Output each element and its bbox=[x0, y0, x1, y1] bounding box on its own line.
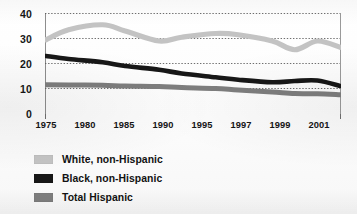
x-axis-label-1997: 1997 bbox=[224, 120, 258, 130]
legend-label-total-hispanic: Total Hispanic bbox=[62, 192, 133, 203]
legend-item-black-non-hispanic: Black, non-Hispanic bbox=[34, 169, 334, 188]
chart-legend: White, non-Hispanic Black, non-Hispanic … bbox=[34, 150, 334, 207]
x-axis-ticks bbox=[46, 114, 341, 119]
series-line-white-non-hispanic bbox=[46, 25, 340, 50]
legend-swatch-black-non-hispanic bbox=[34, 174, 53, 183]
x-axis-label-1995: 1995 bbox=[185, 120, 219, 130]
legend-label-black-non-hispanic: Black, non-Hispanic bbox=[62, 173, 162, 184]
plot-area bbox=[0, 0, 357, 140]
line-chart: 40 30 20 10 0 bbox=[0, 0, 357, 140]
legend-item-white-non-hispanic: White, non-Hispanic bbox=[34, 150, 334, 169]
x-axis-label-2001: 2001 bbox=[302, 120, 336, 130]
legend-swatch-white-non-hispanic bbox=[34, 155, 53, 164]
x-axis-label-1980: 1980 bbox=[68, 120, 102, 130]
x-axis-label-1990: 1990 bbox=[146, 120, 180, 130]
chart-page: 40 30 20 10 0 bbox=[0, 0, 357, 214]
x-axis-label-1999: 1999 bbox=[263, 120, 297, 130]
x-axis-label-1985: 1985 bbox=[107, 120, 141, 130]
legend-swatch-total-hispanic bbox=[34, 193, 53, 202]
series-line-total-hispanic bbox=[46, 85, 340, 95]
series-line-black-non-hispanic bbox=[46, 56, 340, 86]
legend-item-total-hispanic: Total Hispanic bbox=[34, 188, 334, 207]
x-axis-label-1975: 1975 bbox=[29, 120, 63, 130]
legend-label-white-non-hispanic: White, non-Hispanic bbox=[62, 154, 163, 165]
